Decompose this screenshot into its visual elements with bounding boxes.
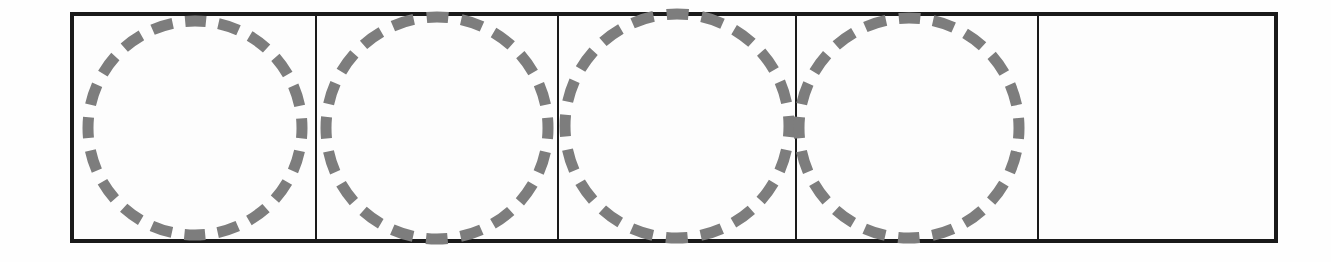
dashed-circle-path	[88, 21, 302, 235]
cell-2[interactable]	[317, 16, 559, 239]
dashed-circle-path	[799, 18, 1019, 238]
grid-frame	[70, 12, 1278, 243]
cell-1[interactable]	[74, 16, 317, 239]
figure-canvas	[0, 0, 1331, 262]
cell-4[interactable]	[797, 16, 1039, 239]
dashed-circle-icon	[315, 6, 559, 250]
cell-3[interactable]	[559, 16, 797, 239]
dashed-circle-icon	[788, 7, 1030, 249]
cell-5[interactable]	[1039, 16, 1274, 239]
empty-cell-area	[1039, 16, 1274, 239]
dashed-circle-icon	[554, 3, 800, 249]
dashed-circle-path	[565, 14, 789, 238]
dashed-circle-path	[326, 17, 548, 239]
dashed-circle-icon	[77, 10, 313, 246]
